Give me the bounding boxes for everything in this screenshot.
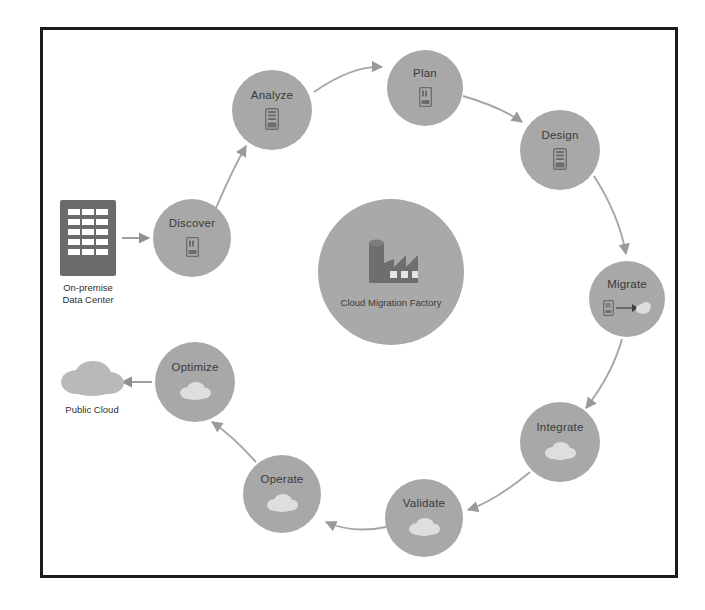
public-cloud (57, 358, 127, 400)
node-optimize[interactable]: Optimize (155, 342, 235, 422)
node-design-label: Design (542, 130, 579, 142)
datacenter-icon (60, 200, 116, 276)
server-rack-icon (265, 108, 279, 130)
cloud-icon (543, 440, 577, 462)
cloud-icon (178, 380, 212, 402)
arrow-discover-to-analyze (216, 146, 246, 208)
server-to-cloud-icon (603, 297, 651, 319)
arrow-migrate-to-integrate (586, 339, 622, 408)
server-rack-icon (553, 148, 567, 170)
node-migrate-label: Migrate (607, 279, 647, 291)
server-icon (186, 236, 199, 258)
cloud-icon (265, 492, 299, 514)
node-integrate-label: Integrate (536, 422, 583, 434)
node-analyze-label: Analyze (251, 90, 293, 102)
node-migrate[interactable]: Migrate (589, 261, 665, 337)
node-analyze[interactable]: Analyze (232, 70, 312, 150)
diagram-canvas: On-premise Data Center Public Cloud (0, 0, 705, 610)
arrow-analyze-to-plan (314, 67, 382, 92)
on-premise-data-center-label: On-premise Data Center (38, 282, 138, 306)
arrow-integrate-to-validate (468, 472, 530, 510)
public-cloud-label: Public Cloud (42, 404, 142, 416)
node-design[interactable]: Design (520, 110, 600, 190)
server-icon (419, 86, 432, 108)
arrow-plan-to-design (463, 96, 522, 122)
center-node-cloud-migration-factory[interactable]: Cloud Migration Factory (318, 199, 464, 345)
node-validate-label: Validate (403, 498, 445, 510)
arrow-design-to-migrate (594, 176, 626, 254)
node-plan-label: Plan (413, 68, 437, 80)
node-integrate[interactable]: Integrate (520, 402, 600, 482)
node-operate[interactable]: Operate (243, 455, 321, 533)
factory-icon (360, 237, 422, 291)
center-node-label: Cloud Migration Factory (341, 297, 442, 308)
node-operate-label: Operate (261, 474, 304, 486)
cloud-icon (57, 358, 127, 400)
cloud-icon (407, 516, 441, 538)
on-premise-data-center (60, 200, 116, 276)
node-discover-label: Discover (169, 218, 215, 230)
arrow-operate-to-optimize (212, 422, 256, 462)
node-validate[interactable]: Validate (385, 479, 463, 557)
node-optimize-label: Optimize (172, 362, 219, 374)
node-discover[interactable]: Discover (153, 199, 231, 277)
arrow-validate-to-operate (326, 522, 386, 530)
node-plan[interactable]: Plan (387, 50, 463, 126)
